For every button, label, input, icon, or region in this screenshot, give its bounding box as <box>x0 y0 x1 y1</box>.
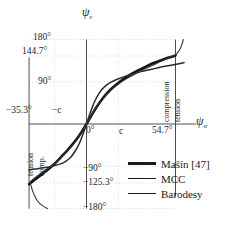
legend-item-mcc: MCC <box>128 171 228 186</box>
legend: Mašín [47] MCC Barodesy <box>128 156 228 201</box>
x-tick-label-neg35-3: −35.3° <box>6 106 32 116</box>
legend-label-masin: Mašín [47] <box>161 158 210 170</box>
legend-label-mcc: MCC <box>161 173 185 185</box>
legend-swatch-barodesy <box>128 193 156 194</box>
annotation-right-tension: tension <box>174 99 182 122</box>
legend-label-barodesy: Barodesy <box>161 188 203 200</box>
annotation-right-compression: compression <box>163 82 171 122</box>
x-tick-label-neg-c: −c <box>52 106 62 116</box>
y-tick-label-neg125-3: −125.3° <box>83 178 114 188</box>
y-tick-label-neg180: −180° <box>83 203 106 213</box>
x-axis-title: ψσ <box>196 115 207 130</box>
x-tick-label-c: c <box>119 127 123 137</box>
annotation-left-tension: tension <box>27 153 35 176</box>
y-tick-label-180: 180° <box>33 33 51 43</box>
legend-item-barodesy: Barodesy <box>128 186 228 201</box>
y-tick-label-144-7: 144.7° <box>22 47 47 57</box>
legend-swatch-masin <box>128 162 156 165</box>
y-axis-title: ψε <box>82 6 92 21</box>
annotation-left-comp: comp. <box>38 156 46 176</box>
figure-container: ψε ψσ 180° 144.7° 90° −90° −125.3° −180°… <box>0 0 231 229</box>
y-tick-label-90: 90° <box>38 77 51 87</box>
x-tick-label-54-7: 54.7° <box>152 126 172 136</box>
curve-mcc <box>29 63 184 171</box>
x-tick-label-0: 0° <box>86 126 95 136</box>
legend-item-masin: Mašín [47] <box>128 156 228 171</box>
legend-swatch-mcc <box>128 178 156 180</box>
y-tick-label-neg90: −90° <box>83 164 102 174</box>
